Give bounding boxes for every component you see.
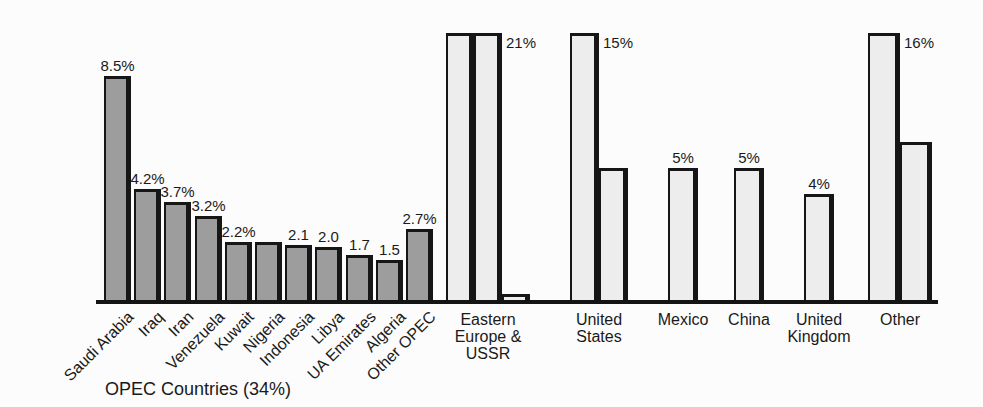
x-axis-baseline <box>96 300 938 304</box>
bar-algeria <box>376 260 403 300</box>
value-label-united-states: 15% <box>603 34 633 51</box>
bar-united-kingdom <box>804 194 834 300</box>
value-label-united-kingdom: 4% <box>779 175 859 192</box>
x-label-saudi-arabia: Saudi Arabia <box>60 308 136 384</box>
bar-other-2 <box>900 142 932 300</box>
bar-ua-emirates <box>346 255 373 300</box>
value-label-eastern-europe-ussr: 21% <box>506 34 536 51</box>
value-label-other: 16% <box>904 34 934 51</box>
x-label-iraq: Iraq <box>135 308 167 340</box>
bar-iraq <box>134 189 161 300</box>
x-label-other: Other <box>830 311 970 328</box>
bar-other-1 <box>868 33 900 300</box>
value-label-saudi-arabia: 8.5% <box>78 57 158 74</box>
value-label-china: 5% <box>709 149 789 166</box>
bar-iran <box>164 202 191 300</box>
bar-nigeria <box>255 242 282 300</box>
bar-mexico <box>668 168 698 300</box>
bar-other-opec <box>406 229 433 300</box>
value-label-venezuela: 3.2% <box>169 197 249 214</box>
bar-eastern-europe-ussr-3 <box>502 294 530 300</box>
bar-china <box>734 168 764 300</box>
bar-kuwait <box>225 242 252 300</box>
bar-libya <box>315 247 342 300</box>
bar-eastern-europe-ussr-2 <box>474 33 502 300</box>
bar-chart-figure: 8.5%Saudi Arabia4.2%Iraq3.7%Iran3.2%Vene… <box>0 0 983 407</box>
opec-group-caption: OPEC Countries (34%) <box>105 379 291 400</box>
value-label-other-opec: 2.7% <box>380 210 460 227</box>
value-label-algeria: 1.5 <box>350 241 430 258</box>
bar-united-states-2 <box>599 168 628 300</box>
bar-saudi-arabia <box>104 76 131 300</box>
bar-eastern-europe-ussr-1 <box>446 33 474 300</box>
bar-united-states-1 <box>570 33 599 300</box>
bar-indonesia <box>285 245 312 300</box>
